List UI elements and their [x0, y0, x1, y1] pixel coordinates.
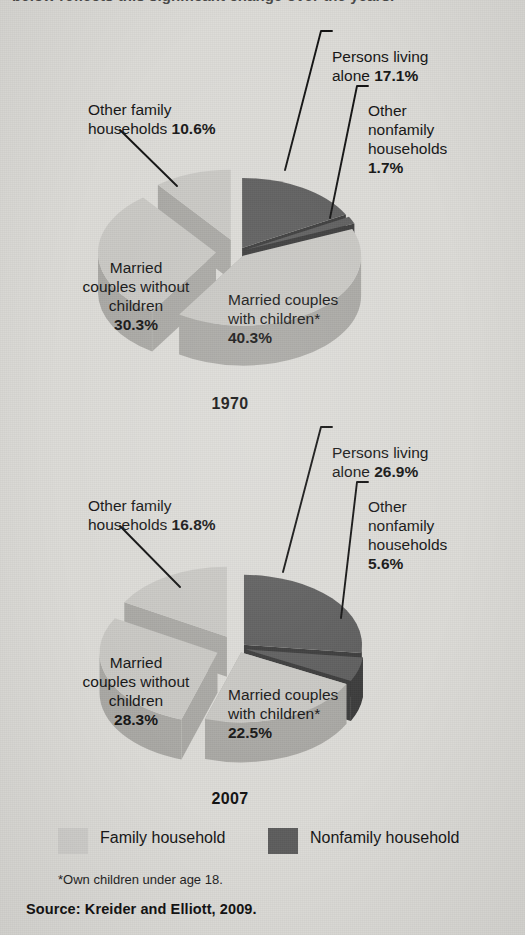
label-other-family-2007: Other family households 16.8%	[88, 477, 216, 534]
pie-title-1970: 1970	[150, 395, 310, 413]
legend-swatch-family	[58, 828, 88, 854]
label-married-without-children-2007: Married couples without children 28.3%	[56, 634, 216, 729]
label-value: 40.3%	[228, 329, 272, 346]
label-other-family-1970: Other family households 10.6%	[88, 81, 216, 138]
footnote: *Own children under age 18.	[58, 872, 223, 887]
pie-title-2007: 2007	[150, 790, 310, 808]
legend-label-nonfamily: Nonfamily household	[310, 829, 459, 847]
label-married-with-children-1970: Married couples with children* 40.3%	[228, 271, 338, 347]
legend-label-family: Family household	[100, 829, 225, 847]
label-text: Other family households	[88, 101, 172, 137]
label-text: Other nonfamily households	[368, 102, 447, 157]
label-value: 10.6%	[172, 120, 216, 137]
legend-swatch-nonfamily	[268, 828, 298, 854]
label-value: 5.6%	[368, 555, 403, 572]
label-value: 30.3%	[114, 316, 158, 333]
label-other-nonfamily-2007: Other nonfamily households 5.6%	[368, 478, 447, 573]
label-text: Married couples without children	[83, 259, 190, 314]
label-persons-living-alone-1970: Persons living alone 17.1%	[332, 28, 429, 85]
label-value: 28.3%	[114, 711, 158, 728]
label-persons-living-alone-2007: Persons living alone 26.9%	[332, 424, 429, 481]
label-text: Married couples with children*	[228, 291, 338, 327]
legend: Family household Nonfamily household	[0, 826, 525, 860]
label-value: 16.8%	[172, 516, 216, 533]
label-text: Other family households	[88, 497, 172, 533]
label-text: Married couples without children	[83, 654, 190, 709]
label-value: 1.7%	[368, 159, 403, 176]
label-other-nonfamily-1970: Other nonfamily households 1.7%	[368, 82, 447, 177]
label-married-with-children-2007: Married couples with children* 22.5%	[228, 666, 338, 742]
label-value: 22.5%	[228, 724, 272, 741]
source-line: Source: Kreider and Elliott, 2009.	[26, 901, 257, 917]
label-married-without-children-1970: Married couples without children 30.3%	[56, 239, 216, 334]
label-text: Married couples with children*	[228, 686, 338, 722]
label-text: Other nonfamily households	[368, 498, 447, 553]
